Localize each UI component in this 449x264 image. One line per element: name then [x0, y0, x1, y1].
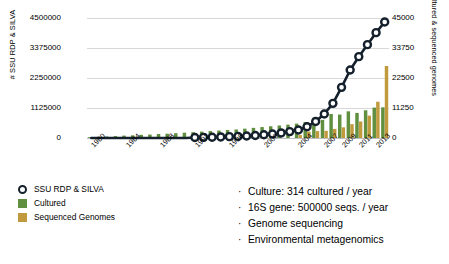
bar	[359, 121, 362, 138]
figure-root: # SSU RDP & SILVA # Cultured & sequenced…	[0, 0, 449, 264]
bar	[321, 120, 324, 138]
list-item-label: Genome sequencing	[248, 216, 343, 231]
list-item-label: Culture: 314 cultured / year	[248, 184, 372, 199]
bullet-dot-icon: ·	[238, 184, 248, 199]
bar	[355, 113, 358, 138]
list-item-label: Environmental metagenomics	[248, 232, 384, 247]
list-item: · Genome sequencing	[238, 216, 388, 232]
legend-label: Cultured	[34, 198, 66, 208]
data-point-marker	[217, 133, 224, 140]
bar	[316, 131, 319, 138]
data-point-marker	[347, 67, 354, 74]
list-item: · Culture: 314 cultured / year	[238, 184, 388, 200]
data-point-marker	[381, 19, 388, 26]
legend-label: Sequenced Genomes	[34, 212, 115, 222]
bar	[385, 66, 388, 138]
list-item: · 16S gene: 500000 seqs. / year	[238, 200, 388, 216]
data-point-marker	[338, 84, 345, 91]
data-point-marker	[355, 53, 362, 60]
list-item-label: 16S gene: 500000 seqs. / year	[248, 200, 388, 215]
data-point-marker	[286, 128, 293, 135]
data-point-marker	[295, 127, 302, 134]
data-point-marker	[373, 29, 380, 36]
legend-item-cultured: Cultured	[18, 196, 178, 210]
list-item: · Environmental metagenomics	[238, 232, 388, 248]
data-point-marker	[329, 100, 336, 107]
data-point-marker	[252, 132, 259, 139]
bullet-dot-icon: ·	[238, 232, 248, 247]
bar	[342, 127, 345, 138]
legend-item-ssu: SSU RDP & SILVA	[18, 182, 178, 196]
bar	[338, 115, 341, 138]
data-point-marker	[312, 118, 319, 125]
annotation-bullet-list: · Culture: 314 cultured / year · 16S gen…	[238, 184, 388, 248]
chart-plot-area: # SSU RDP & SILVA # Cultured & sequenced…	[0, 0, 449, 170]
legend-item-sequenced-genomes: Sequenced Genomes	[18, 210, 178, 224]
data-point-marker	[278, 129, 285, 136]
bar	[373, 108, 376, 138]
data-point-marker	[304, 123, 311, 130]
bullet-dot-icon: ·	[238, 200, 248, 215]
data-point-marker	[364, 41, 371, 48]
circle-marker-icon	[18, 185, 27, 194]
chart-legend: SSU RDP & SILVA Cultured Sequenced Genom…	[18, 182, 178, 224]
bullet-dot-icon: ·	[238, 216, 248, 231]
color-swatch-icon	[18, 199, 27, 208]
legend-label: SSU RDP & SILVA	[34, 184, 104, 194]
color-swatch-icon	[18, 213, 27, 222]
bar	[376, 102, 379, 138]
data-point-marker	[321, 111, 328, 118]
